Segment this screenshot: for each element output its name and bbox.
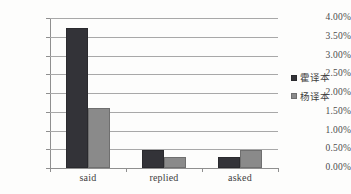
chart-screenshot: 0.00%0.50%1.00%1.50%2.00%2.50%3.00%3.50%… xyxy=(0,0,351,194)
y-axis-label: 4.00% xyxy=(307,13,351,23)
legend-item-label: 杨译本 xyxy=(300,92,330,102)
bar-said-series0 xyxy=(66,28,88,168)
y-axis-label: 1.50% xyxy=(307,107,351,117)
gridline xyxy=(50,168,278,169)
bar-asked-series1 xyxy=(240,150,262,168)
y-axis-label: 1.00% xyxy=(307,126,351,136)
y-axis-label: 0.50% xyxy=(307,144,351,154)
legend-item-label: 霍译本 xyxy=(300,73,330,83)
legend-swatch-icon xyxy=(291,93,297,99)
x-axis-tick xyxy=(278,168,279,172)
legend-item-0: 霍译本 xyxy=(291,73,330,83)
x-axis-category-label-replied: replied xyxy=(126,173,202,183)
y-axis-label: 3.00% xyxy=(307,51,351,61)
x-axis-category-label-asked: asked xyxy=(202,173,278,183)
x-axis-tick xyxy=(126,168,127,172)
chart-legend: 霍译本杨译本 xyxy=(291,73,330,101)
legend-swatch-icon xyxy=(291,75,297,81)
bar-asked-series0 xyxy=(218,157,240,168)
x-axis-tick xyxy=(50,168,51,172)
x-axis-tick xyxy=(202,168,203,172)
y-axis-label: 3.50% xyxy=(307,32,351,42)
bar-said-series1 xyxy=(88,108,110,168)
plot-area xyxy=(50,18,278,168)
x-axis-category-label-said: said xyxy=(50,173,126,183)
bar-replied-series1 xyxy=(164,157,186,168)
bar-replied-series0 xyxy=(142,150,164,168)
y-axis-label: 0.00% xyxy=(307,163,351,173)
legend-item-1: 杨译本 xyxy=(291,92,330,102)
